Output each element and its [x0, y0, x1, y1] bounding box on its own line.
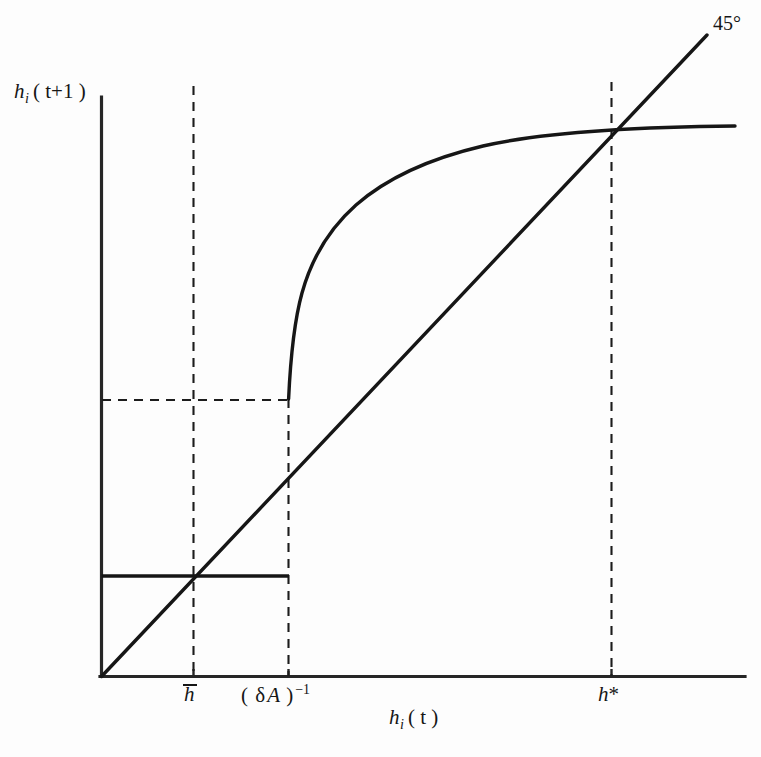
delta-symbol: δ	[255, 683, 265, 707]
plot-area	[0, 0, 761, 757]
tick-label-hstar-asterisk: *	[609, 682, 620, 706]
x-axis-label: hi( t )	[389, 707, 438, 731]
tick-label-da-exponent: −1	[295, 682, 310, 697]
x-axis-label-subscript: i	[400, 716, 404, 732]
x-axis-label-argument: ( t )	[408, 705, 438, 729]
forty-five-degree-label: 45°	[713, 13, 741, 33]
capital-a-symbol: A	[267, 683, 280, 707]
figure-canvas: hi( t+1 ) hi( t ) h ( δA )−1 h* 45°	[0, 0, 761, 757]
x-axis-label-base: h	[389, 705, 400, 729]
transition-function-high-branch	[289, 126, 735, 399]
tick-label-da-open-paren: (	[241, 683, 253, 707]
tick-label-hbar-text: h	[184, 684, 195, 705]
tick-label-da-close-paren: )	[281, 683, 293, 707]
tick-label-hstar-base: h	[598, 682, 609, 706]
tick-label-hstar: h*	[598, 684, 619, 705]
y-axis-label-subscript: i	[25, 90, 29, 106]
y-axis-label-base: h	[14, 79, 25, 103]
y-axis-label-argument: ( t+1 )	[33, 79, 86, 103]
tick-label-hbar: h	[184, 684, 195, 705]
y-axis-label: hi( t+1 )	[14, 81, 86, 105]
tick-label-delta-a-inverse: ( δA )−1	[241, 683, 310, 706]
